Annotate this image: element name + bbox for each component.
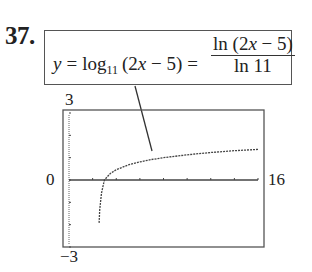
pointer-line [135,86,152,151]
x-max-label: 16 [268,170,285,190]
graph-svg [0,0,312,272]
x-min-label: 0 [46,170,55,190]
y-max-label: 3 [65,90,74,110]
log-curve [99,149,258,223]
y-min-label: −3 [60,247,78,267]
